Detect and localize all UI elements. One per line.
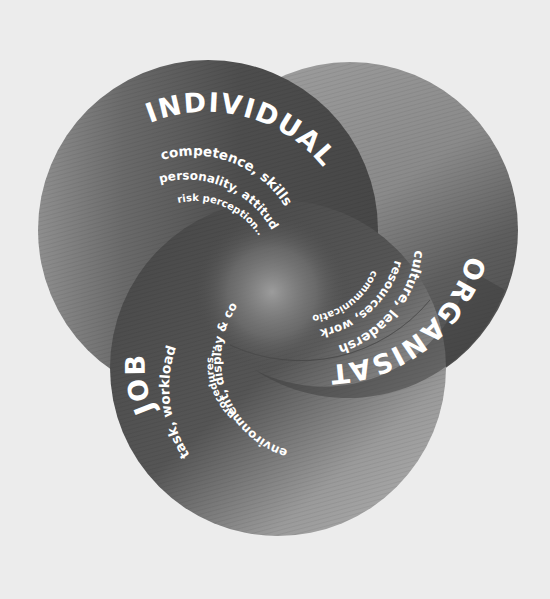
human-factors-diagram: INDIVIDUAL competence, skills personalit…	[0, 0, 550, 599]
